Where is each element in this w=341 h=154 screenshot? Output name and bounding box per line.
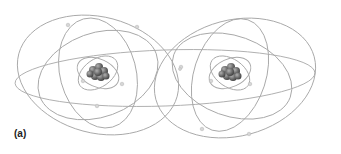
electron-dot (200, 127, 204, 131)
right-atom (141, 1, 329, 154)
electron-dot (120, 82, 124, 86)
electron-dot (179, 68, 182, 71)
electron-dot (95, 104, 99, 108)
electron-dot (247, 132, 251, 136)
electron-dot (209, 79, 213, 83)
electron-dot (135, 25, 139, 29)
figure-label: (a) (14, 128, 26, 139)
shared-outer-orbit (14, 45, 316, 111)
left-nucleus (87, 63, 110, 81)
atom-diagram (0, 0, 341, 154)
electron-dot (66, 23, 70, 27)
left-atom (4, 0, 192, 152)
electron-dot (81, 79, 85, 83)
electron-dot (248, 82, 252, 86)
right-nucleus (219, 63, 242, 81)
